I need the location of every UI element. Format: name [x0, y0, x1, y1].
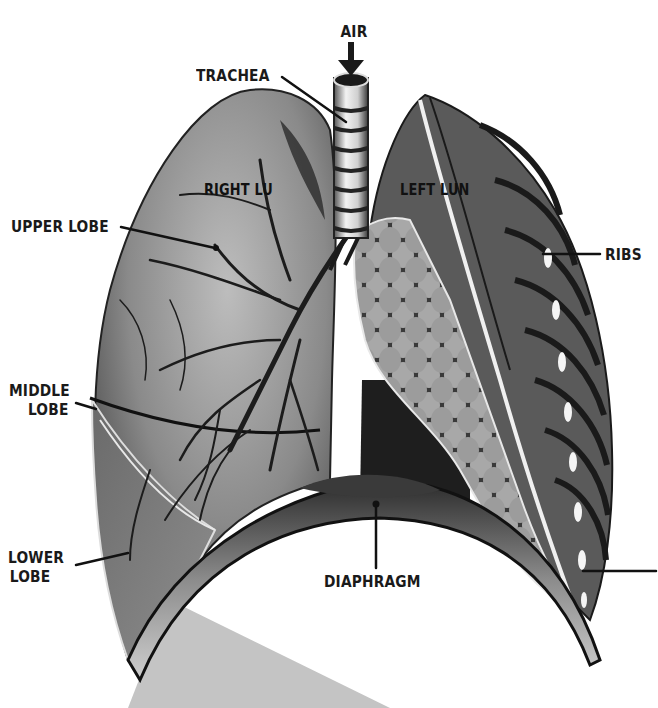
label-middle-lobe-line1: MIDDLE	[9, 381, 70, 400]
label-ribs: RIBS	[605, 245, 642, 264]
label-lower-lobe: LOWER LOBE	[8, 548, 64, 586]
label-air: AIR	[337, 22, 371, 41]
label-trachea: TRACHEA	[196, 66, 270, 85]
lung-diagram	[0, 0, 658, 708]
air-arrow-icon	[338, 42, 364, 76]
label-lower-lobe-line1: LOWER	[8, 548, 64, 567]
label-right-lung: RIGHT LU	[204, 181, 273, 200]
label-left-lung: LEFT LUN	[400, 181, 470, 200]
label-upper-lobe: UPPER LOBE	[11, 217, 109, 236]
label-diaphragm: DIAPHRAGM	[324, 572, 421, 591]
label-lower-lobe-line2: LOBE	[8, 567, 64, 586]
label-middle-lobe-line2: LOBE	[9, 400, 70, 419]
label-middle-lobe: MIDDLE LOBE	[9, 381, 70, 419]
